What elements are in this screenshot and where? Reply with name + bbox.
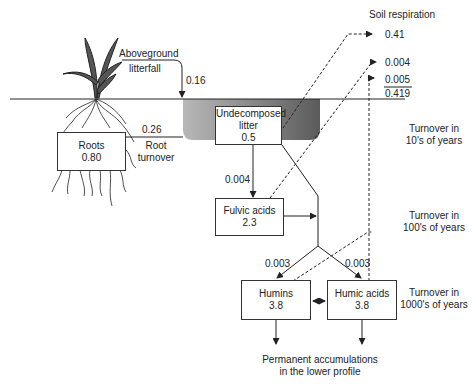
soil-respiration-heading: Soil respiration: [369, 9, 435, 21]
humic-pool-box: Humic acids 3.8: [327, 280, 397, 320]
litterfall-label: litterfall: [129, 63, 161, 75]
to-humins-value: 0.003: [265, 258, 290, 270]
litter-to-junction-line: [282, 145, 318, 246]
plant-icon: [63, 38, 122, 98]
resp-value-2: 0.004: [385, 57, 410, 69]
resp-value-3: 0.005: [385, 74, 410, 86]
aboveground-label: Aboveground: [119, 48, 179, 60]
humins-pool-box: Humins 3.8: [241, 280, 311, 320]
fulvic-pool-box: Fulvic acids 2.3: [215, 198, 284, 236]
turnover-10s-label: Turnover in 10's of years: [398, 123, 470, 147]
to-humic-value: 0.003: [345, 258, 370, 270]
permanent-accumulations-label: Permanent accumulations in the lower pro…: [250, 354, 390, 378]
root-turnover-value: 0.26: [142, 124, 161, 136]
resp-value-1: 0.41: [385, 29, 404, 41]
root-turnover-label: Root turnover: [136, 140, 176, 164]
litterfall-value: 0.16: [186, 75, 205, 87]
litter-pool-box: Undecomposed litter 0.5: [215, 106, 282, 145]
resp-humic-dashed: [369, 78, 374, 281]
turnover-1000s-label: Turnover in 1000's of years: [398, 287, 470, 311]
turnover-100s-label: Turnover in 100's of years: [398, 210, 470, 234]
resp-total: 0.419: [385, 88, 410, 100]
litter-to-fulvic-value: 0.004: [225, 174, 250, 186]
roots-pool-box: Roots 0.80: [57, 132, 126, 171]
